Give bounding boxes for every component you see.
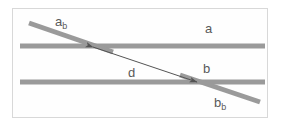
label-d-base: d [128,65,135,80]
label-a-base: a [205,21,212,36]
geometry-diagram [12,8,270,120]
label-a-sub-b-subscript: b [62,21,67,31]
label-b-sub-b-subscript: b [221,102,226,112]
label-b-sub-b: bb [214,96,226,109]
label-a: a [205,22,212,35]
label-b-base: b [203,61,210,76]
arrow-d [93,47,197,82]
label-b: b [203,62,210,75]
label-d: d [128,66,135,79]
figure-canvas: ab a d b bb [0,0,285,127]
label-a-sub-b: ab [55,15,67,28]
